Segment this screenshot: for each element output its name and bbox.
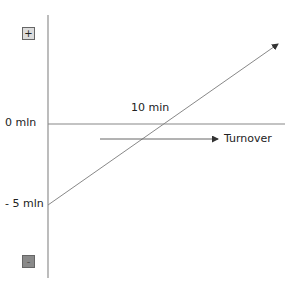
zoom-out-button[interactable]: -: [22, 255, 35, 268]
zoom-in-button[interactable]: +: [22, 27, 35, 40]
zero-mln-label: 0 mln: [5, 116, 36, 129]
ten-min-label: 10 min: [131, 101, 169, 114]
minus-five-mln-label: - 5 mln: [5, 197, 44, 210]
turnover-label: Turnover: [224, 132, 272, 145]
